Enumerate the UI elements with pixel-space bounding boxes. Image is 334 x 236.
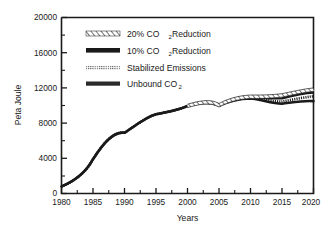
- y-tick-label: 20000: [34, 12, 57, 22]
- y-tick-label: 16000: [34, 48, 57, 58]
- x-tick-label: 1985: [84, 197, 103, 207]
- y-tick-label: 8000: [39, 118, 58, 128]
- line-chart: 0 4000 8000 12000 16000 20000: [0, 0, 334, 236]
- legend-label-1-suffix: Reduction: [172, 29, 211, 39]
- x-tick-label: 2005: [210, 197, 229, 207]
- x-tick-label: 2020: [302, 197, 321, 207]
- y-tick-label: 4000: [39, 153, 58, 163]
- x-axis-tick-labels: 1980 1985 1990 1995 2000 2005 2010 2015 …: [52, 197, 320, 207]
- legend-label-2-suffix: Reduction: [172, 46, 211, 56]
- x-axis-title: Years: [177, 213, 199, 223]
- legend-label-4-prefix: Unbound CO: [127, 79, 177, 89]
- x-tick-label: 1980: [52, 197, 71, 207]
- dotted-swatch: [86, 66, 120, 70]
- chart-container: 0 4000 8000 12000 16000 20000: [0, 0, 334, 236]
- y-axis-title: Peta Joule: [13, 84, 23, 125]
- hatched-swatch: [86, 31, 120, 36]
- y-tick-label: 12000: [34, 83, 57, 93]
- legend-label-3: Stabilized Emissions: [127, 63, 206, 73]
- x-tick-label: 1990: [115, 197, 134, 207]
- legend-label-2-prefix: 10% CO: [127, 46, 160, 56]
- solid-swatch: [86, 82, 120, 86]
- solid-thick-swatch: [86, 48, 120, 53]
- x-tick-label: 2000: [178, 197, 197, 207]
- legend-label-1-prefix: 20% CO: [127, 29, 160, 39]
- x-tick-label: 2010: [241, 197, 260, 207]
- x-tick-label: 1995: [147, 197, 166, 207]
- x-tick-label: 2015: [273, 197, 292, 207]
